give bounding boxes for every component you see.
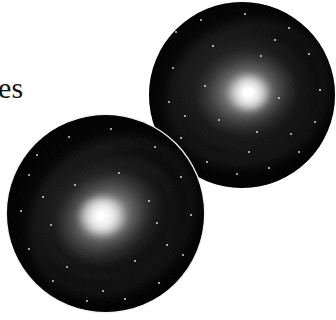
field-star [158, 282, 160, 284]
field-star [200, 19, 202, 21]
field-star [28, 174, 30, 176]
field-star [168, 101, 170, 103]
plate-grain-lower [7, 115, 204, 312]
field-star [260, 55, 262, 57]
plate-field-lower [7, 115, 204, 312]
galaxy-nucleus-lower [96, 212, 105, 220]
field-star [134, 260, 136, 262]
field-star [110, 128, 112, 130]
spiral-arm-ring-inner [48, 162, 174, 277]
field-star [218, 119, 220, 121]
field-star [172, 67, 174, 69]
field-star [268, 167, 270, 169]
galaxy-core-upper [229, 76, 269, 110]
field-star [314, 121, 316, 123]
field-star [308, 53, 310, 55]
field-star [156, 222, 158, 224]
field-star [244, 13, 246, 15]
field-star [86, 300, 88, 302]
field-star [52, 280, 54, 282]
field-star [182, 254, 184, 256]
field-star [298, 151, 300, 153]
field-star [74, 184, 76, 186]
field-star [68, 136, 70, 138]
spiral-arm-ring-mid [21, 134, 200, 304]
field-star [319, 89, 321, 91]
galaxy-nucleus-upper [242, 87, 254, 98]
figure-canvas: es [0, 0, 336, 320]
galaxy-plate-lower-left [7, 115, 204, 312]
field-star [290, 133, 292, 135]
field-star [154, 146, 156, 148]
field-star [212, 45, 215, 48]
field-star [50, 224, 52, 226]
spiral-arm-ring-inner [194, 46, 301, 143]
spiral-arm-ring-outer [7, 115, 204, 312]
field-star [288, 27, 290, 29]
field-star [274, 39, 276, 41]
field-star [102, 290, 104, 292]
field-star [36, 154, 38, 156]
field-star [190, 214, 192, 216]
spiral-arm-ring-mid [171, 24, 324, 164]
field-star [175, 31, 177, 33]
field-star [248, 151, 250, 153]
field-star [118, 172, 120, 174]
galaxy-bulge-lower [42, 157, 169, 276]
field-star [180, 137, 182, 139]
field-star [180, 176, 182, 178]
plate-vignette-lower [7, 115, 204, 312]
field-star [166, 244, 168, 246]
field-star [206, 161, 208, 163]
field-star [20, 210, 22, 212]
field-star [124, 298, 126, 300]
field-star [204, 85, 206, 87]
field-star [278, 97, 280, 99]
field-star [256, 131, 258, 133]
field-star [66, 266, 68, 268]
field-star [42, 196, 44, 198]
field-star [28, 248, 30, 250]
field-star [184, 115, 186, 117]
field-star [236, 173, 238, 175]
field-star [148, 200, 150, 202]
caption-text-fragment: es [0, 73, 23, 103]
galaxy-halo-outer-lower [7, 115, 204, 312]
galaxy-core-lower [79, 197, 125, 235]
galaxy-bulge-upper [194, 45, 300, 138]
